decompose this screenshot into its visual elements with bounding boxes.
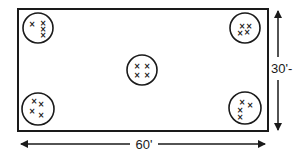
cluster-circle bbox=[127, 55, 157, 85]
cluster-circle bbox=[22, 93, 54, 125]
x-marker-icon: × bbox=[144, 71, 151, 80]
width-label: 60' bbox=[136, 137, 153, 152]
height-dimension: 30'- bbox=[271, 11, 292, 130]
x-marker-icon: × bbox=[244, 28, 251, 37]
cluster-top-left: ×××× bbox=[23, 13, 53, 43]
x-marker-icon: × bbox=[29, 20, 36, 29]
x-marker-icon: × bbox=[134, 62, 141, 71]
cluster-center: ×××× bbox=[127, 55, 157, 85]
plant-clusters: ×××××××××××××××××××× bbox=[22, 13, 261, 125]
site-plan-diagram: ×××××××××××××××××××× 60' 30'- bbox=[0, 0, 303, 154]
cluster-circle bbox=[229, 92, 261, 124]
cluster-bottom-left: ×××× bbox=[22, 93, 54, 125]
x-marker-icon: × bbox=[38, 111, 45, 120]
x-marker-icon: × bbox=[237, 113, 244, 122]
x-marker-icon: × bbox=[40, 31, 47, 40]
x-marker-icon: × bbox=[31, 97, 38, 106]
cluster-circle bbox=[23, 13, 53, 43]
width-dimension: 60' bbox=[21, 137, 265, 152]
x-marker-icon: × bbox=[144, 62, 151, 71]
x-marker-icon: × bbox=[247, 101, 254, 110]
x-marker-icon: × bbox=[29, 107, 36, 116]
cluster-bottom-right: ×××× bbox=[229, 92, 261, 124]
cluster-top-right: ×××× bbox=[230, 13, 260, 43]
x-marker-icon: × bbox=[134, 71, 141, 80]
height-label: 30'- bbox=[271, 61, 292, 76]
x-marker-icon: × bbox=[38, 100, 45, 109]
x-marker-icon: × bbox=[237, 29, 244, 38]
